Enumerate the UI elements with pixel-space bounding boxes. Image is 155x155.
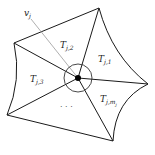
ellipsis: · · · [60, 102, 73, 111]
spokes [7, 8, 148, 141]
center-vertex-dot [75, 75, 81, 81]
triangle-label-m: Tj,mj [100, 94, 117, 107]
vertex-star-diagram: vj Tj,2 Tj,1 Tj,3 Tj,mj · · · [0, 0, 155, 155]
vertex-label: vj [24, 8, 31, 20]
triangle-label-2: Tj,2 [60, 40, 74, 52]
edge-bottom-right [113, 84, 148, 141]
triangle-label-3: Tj,3 [30, 74, 44, 86]
edge-top-right [99, 8, 148, 84]
outer-boundary [7, 8, 148, 141]
spoke-bottom [78, 78, 113, 141]
triangle-label-1: Tj,1 [98, 54, 112, 66]
spoke-right [78, 78, 148, 84]
edge-left [7, 43, 17, 115]
spoke-top [78, 8, 99, 78]
edge-bottom [7, 115, 113, 141]
